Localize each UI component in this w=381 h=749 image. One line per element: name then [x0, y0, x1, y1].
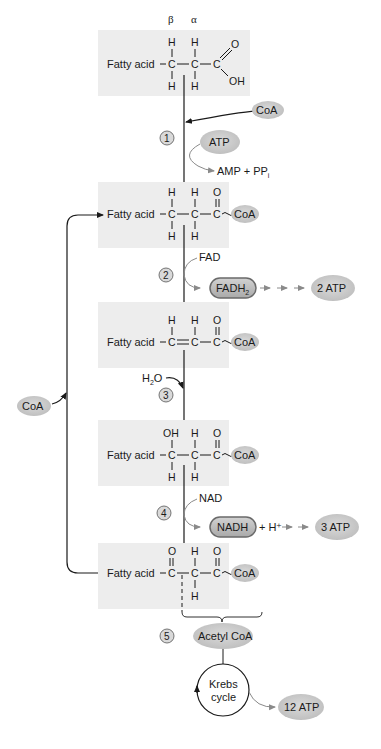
- svg-text:C: C: [191, 58, 199, 70]
- svg-text:C: C: [168, 567, 176, 579]
- svg-text:H: H: [191, 230, 199, 242]
- svg-text:CoA: CoA: [234, 567, 256, 579]
- svg-text:Fatty acid: Fatty acid: [107, 567, 155, 579]
- svg-text:O: O: [168, 545, 176, 557]
- svg-text:OH: OH: [229, 75, 245, 87]
- molecule-hydroxyacyl-coa: Fatty acid C C C OH H O H H CoA: [98, 420, 259, 486]
- beta-label: β: [168, 13, 174, 25]
- molecule-fatty-acid: Fatty acid C C C H H H H O OH: [98, 30, 250, 96]
- svg-text:CoA: CoA: [256, 104, 278, 116]
- svg-text:OH: OH: [163, 427, 179, 439]
- svg-text:cycle: cycle: [211, 691, 236, 703]
- svg-text:H2O: H2O: [142, 372, 163, 386]
- svg-text:O: O: [231, 38, 239, 50]
- molecule-enoyl-coa: Fatty acid C C C H H O CoA: [98, 302, 259, 368]
- svg-text:ATP: ATP: [209, 136, 230, 148]
- svg-text:1: 1: [164, 133, 170, 144]
- svg-text:CoA: CoA: [22, 400, 44, 412]
- svg-text:+ H⁺: + H⁺: [259, 521, 282, 533]
- svg-text:O: O: [213, 186, 221, 198]
- svg-text:O: O: [213, 427, 221, 439]
- svg-text:H: H: [168, 314, 176, 326]
- svg-text:Krebs: Krebs: [209, 678, 238, 690]
- svg-text:C: C: [191, 449, 199, 461]
- svg-text:Fatty acid: Fatty acid: [107, 58, 155, 70]
- molecule-acyl-coa: Fatty acid C C C H H O H H CoA: [98, 182, 259, 248]
- beta-oxidation-diagram: β α Fatty acid C C C H H H H O OH CoA 1 …: [0, 0, 381, 749]
- svg-text:FAD: FAD: [199, 251, 220, 263]
- svg-text:H: H: [168, 230, 176, 242]
- svg-text:C: C: [213, 336, 221, 348]
- svg-text:Fatty acid: Fatty acid: [107, 208, 155, 220]
- svg-text:H: H: [191, 427, 199, 439]
- svg-text:4: 4: [161, 508, 167, 519]
- svg-text:12 ATP: 12 ATP: [284, 701, 319, 713]
- svg-text:NADH: NADH: [217, 521, 248, 533]
- svg-text:Fatty acid: Fatty acid: [107, 449, 155, 461]
- svg-text:Acetyl CoA: Acetyl CoA: [198, 630, 253, 642]
- svg-text:C: C: [191, 567, 199, 579]
- svg-text:NAD: NAD: [199, 492, 222, 504]
- coa-recycle-loop: CoA: [17, 215, 150, 573]
- svg-text:C: C: [213, 208, 221, 220]
- svg-text:H: H: [168, 471, 176, 483]
- svg-text:5: 5: [164, 631, 170, 642]
- svg-text:Fatty acid: Fatty acid: [107, 336, 155, 348]
- svg-text:2: 2: [163, 270, 169, 281]
- svg-text:H: H: [191, 314, 199, 326]
- step-4: NAD 4 NADH + H⁺ 3 ATP: [157, 492, 359, 540]
- svg-text:H: H: [191, 80, 199, 92]
- svg-text:3: 3: [163, 390, 169, 401]
- svg-text:H: H: [191, 545, 199, 557]
- svg-text:H: H: [168, 80, 176, 92]
- step-5: 5 Acetyl CoA Krebs cycle 12 ATP: [160, 623, 324, 720]
- svg-text:CoA: CoA: [234, 449, 256, 461]
- svg-text:H: H: [191, 590, 199, 602]
- svg-text:C: C: [168, 58, 176, 70]
- svg-text:C: C: [168, 449, 176, 461]
- svg-text:C: C: [191, 336, 199, 348]
- krebs-cycle: [197, 664, 249, 716]
- svg-text:C: C: [213, 58, 221, 70]
- svg-text:H: H: [191, 471, 199, 483]
- step-3: H2O 3: [142, 372, 183, 402]
- svg-text:O: O: [213, 545, 221, 557]
- svg-text:FADH2: FADH2: [216, 282, 249, 296]
- svg-text:C: C: [168, 336, 176, 348]
- svg-text:H: H: [168, 186, 176, 198]
- svg-text:3 ATP: 3 ATP: [321, 521, 350, 533]
- svg-text:H: H: [191, 186, 199, 198]
- step-2: FAD 2 FADH2 2 ATP: [159, 251, 355, 301]
- acetyl-brace: [182, 612, 262, 622]
- svg-text:C: C: [213, 567, 221, 579]
- svg-text:C: C: [213, 449, 221, 461]
- svg-text:2 ATP: 2 ATP: [317, 282, 346, 294]
- svg-text:H: H: [191, 36, 199, 48]
- svg-text:H: H: [168, 36, 176, 48]
- step-1: CoA 1 ATP AMP + PPi: [160, 101, 284, 179]
- svg-text:CoA: CoA: [234, 336, 256, 348]
- svg-text:C: C: [191, 208, 199, 220]
- molecule-ketoacyl-coa: Fatty acid C C C O H O H CoA: [98, 543, 259, 609]
- alpha-label: α: [191, 13, 197, 25]
- svg-text:AMP + PPi: AMP + PPi: [217, 165, 270, 179]
- svg-text:C: C: [168, 208, 176, 220]
- svg-text:O: O: [213, 314, 221, 326]
- svg-text:CoA: CoA: [234, 208, 256, 220]
